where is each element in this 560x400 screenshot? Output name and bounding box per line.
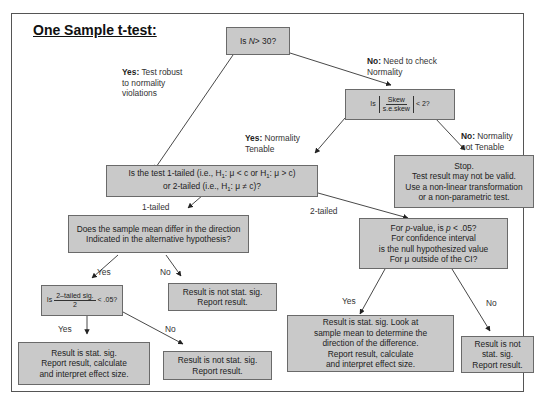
edge-label-half-no: No bbox=[165, 324, 176, 335]
edge-label-yes-robust: Yes: Test robust to normality violations bbox=[122, 67, 182, 99]
node-p-value-question: For p-value, is p < .05? For confidence … bbox=[359, 218, 508, 269]
node-not-sig-direction: Result is not stat. sig. Report result. bbox=[168, 283, 277, 311]
edge-label-no-check: No: Need to check Normality bbox=[367, 56, 437, 77]
edge-label-direction-no: No bbox=[160, 267, 171, 278]
edge-label-yes-tenable: Yes: Normality Tenable bbox=[245, 133, 300, 154]
node-stop-not-valid: Stop. Test result may not be valid. Use … bbox=[394, 155, 534, 208]
edge-label-half-yes: Yes bbox=[58, 324, 72, 335]
node-sig-2tailed: Result is stat. sig. Look at sample mean… bbox=[287, 315, 454, 372]
node-sig-1tailed: Result is stat. sig. Report result, calc… bbox=[18, 342, 150, 385]
node-not-sig-1tailed: Result is not stat. sig. Report result. bbox=[163, 351, 272, 380]
edge-label-no-not-tenable: No: Normality not Tenable bbox=[461, 131, 513, 152]
edge-label-1-tailed: 1-tailed bbox=[142, 202, 169, 213]
node-skew-check: Is Skews.e.skew < 2? bbox=[345, 89, 455, 120]
edge-label-p-no: No bbox=[486, 298, 497, 309]
node-half-sig-check: Is 2–tailed sig.2 < .05? bbox=[41, 285, 123, 316]
edge-label-direction-yes: Yes bbox=[97, 267, 111, 278]
edge-label-p-yes: Yes bbox=[342, 296, 356, 307]
node-tail-question: Is the test 1-tailed (i.e., H1: μ < c or… bbox=[106, 165, 318, 197]
node-direction-question: Does the sample mean differ in the direc… bbox=[68, 215, 249, 253]
edge-label-2-tailed: 2-tailed bbox=[310, 206, 337, 217]
node-not-sig-2tailed: Result is not stat. sig. Report result. bbox=[461, 336, 534, 373]
node-is-n-greater-30: Is N > 30? bbox=[226, 27, 290, 55]
